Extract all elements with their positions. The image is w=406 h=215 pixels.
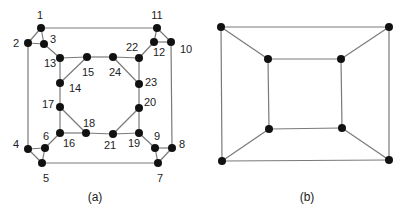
edge-o2-i2 xyxy=(341,27,389,59)
node-5 xyxy=(38,159,46,167)
graph-a-node-labels: 123456789101112131415161718192021222324 xyxy=(13,9,192,184)
node-o2 xyxy=(385,23,393,31)
node-label-18: 18 xyxy=(83,117,95,129)
edge-o3-i3 xyxy=(342,128,389,160)
node-16 xyxy=(56,129,64,137)
node-2 xyxy=(24,39,32,47)
node-label-2: 2 xyxy=(13,37,19,49)
node-22 xyxy=(135,54,143,62)
edge-18-21 xyxy=(86,133,113,134)
edge-o4-o1 xyxy=(221,27,222,161)
graph-a-caption: (a) xyxy=(88,190,103,204)
node-label-11: 11 xyxy=(151,9,162,21)
node-label-8: 8 xyxy=(179,138,185,150)
node-label-14: 14 xyxy=(69,82,81,94)
node-i1 xyxy=(264,55,272,63)
node-3 xyxy=(40,40,48,48)
node-label-16: 16 xyxy=(63,137,75,149)
node-label-10: 10 xyxy=(180,43,192,55)
edge-i3-i4 xyxy=(269,128,342,129)
node-17 xyxy=(56,103,64,111)
node-o3 xyxy=(385,156,393,164)
node-label-21: 21 xyxy=(104,139,116,151)
node-10 xyxy=(167,38,175,46)
node-19 xyxy=(135,129,143,137)
node-23 xyxy=(135,80,143,88)
node-21 xyxy=(109,130,117,138)
node-7 xyxy=(154,159,162,167)
node-4 xyxy=(24,145,32,153)
edge-i4-i1 xyxy=(268,59,269,129)
node-label-3: 3 xyxy=(50,33,56,45)
node-label-6: 6 xyxy=(43,130,49,142)
node-label-7: 7 xyxy=(157,172,163,184)
node-label-12: 12 xyxy=(153,46,165,58)
edge-13-15 xyxy=(60,57,87,58)
node-13 xyxy=(56,54,64,62)
edge-i2-i3 xyxy=(341,59,342,128)
node-label-17: 17 xyxy=(42,98,54,110)
edge-o1-i1 xyxy=(221,27,268,59)
node-11 xyxy=(153,24,161,32)
graph-b-edges xyxy=(221,27,389,161)
edge-o4-i4 xyxy=(222,129,269,161)
node-label-19: 19 xyxy=(128,137,140,149)
node-label-15: 15 xyxy=(82,66,94,78)
node-12 xyxy=(150,38,158,46)
graph-b: (b) xyxy=(217,23,393,204)
node-8 xyxy=(168,144,176,152)
graph-figure: 123456789101112131415161718192021222324 … xyxy=(0,0,406,215)
node-24 xyxy=(109,53,117,61)
node-label-9: 9 xyxy=(154,130,160,142)
node-o4 xyxy=(218,157,226,165)
node-14 xyxy=(56,79,64,87)
node-1 xyxy=(37,24,45,32)
edge-21-20 xyxy=(113,108,139,134)
node-o1 xyxy=(217,23,225,31)
node-15 xyxy=(83,53,91,61)
graph-b-caption: (b) xyxy=(300,190,315,204)
node-label-24: 24 xyxy=(109,66,121,78)
graph-b-nodes xyxy=(217,23,393,165)
node-9 xyxy=(151,144,159,152)
node-i2 xyxy=(337,55,345,63)
node-6 xyxy=(41,144,49,152)
node-label-13: 13 xyxy=(44,57,56,69)
node-18 xyxy=(82,129,90,137)
node-label-5: 5 xyxy=(43,172,49,184)
node-label-23: 23 xyxy=(145,76,157,88)
node-label-20: 20 xyxy=(144,96,156,108)
node-label-1: 1 xyxy=(37,9,43,21)
node-i3 xyxy=(338,124,346,132)
edge-o3-o4 xyxy=(222,160,389,161)
node-20 xyxy=(135,104,143,112)
edge-10-8 xyxy=(171,42,172,148)
graph-a: 123456789101112131415161718192021222324 … xyxy=(13,9,192,204)
node-i4 xyxy=(265,125,273,133)
node-label-22: 22 xyxy=(126,41,138,53)
node-label-4: 4 xyxy=(13,138,19,150)
